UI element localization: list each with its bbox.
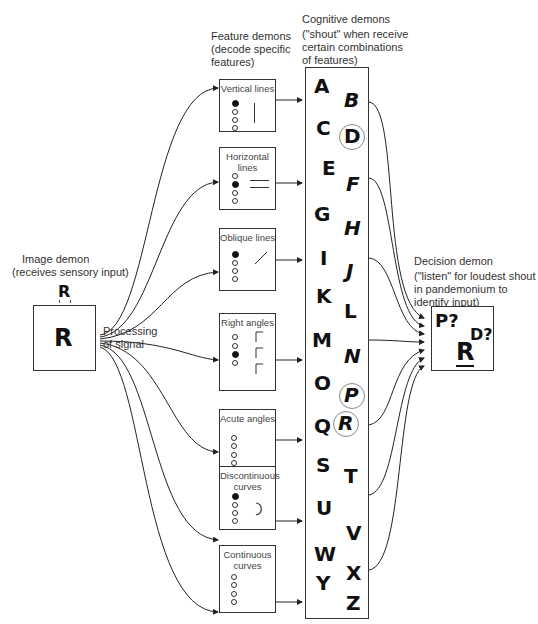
image-letter: R xyxy=(54,328,72,348)
cognitive-demons-column: A C E G I K M O Q S U W Y B D F H J L N … xyxy=(305,67,369,619)
feature-label: Acute angles xyxy=(220,413,275,424)
feature-demons-header: Feature demons (decode specific features… xyxy=(211,30,291,69)
horizontal-line-icon xyxy=(250,187,269,188)
cognitive-demons-subtitle-2: certain combinations xyxy=(302,41,408,54)
cognitive-demons-header: Cognitive demons ("shout" when receive c… xyxy=(302,13,408,67)
letter-i: I xyxy=(320,248,327,268)
feature-box-horizontal-lines: Horizontal lines xyxy=(219,147,276,210)
letter-t: T xyxy=(344,466,358,486)
dot-empty xyxy=(232,502,238,508)
dot-empty xyxy=(231,435,237,441)
feature-demons-subtitle-2: features) xyxy=(211,56,291,69)
letter-d: D xyxy=(344,126,361,146)
letter-g: G xyxy=(314,204,330,224)
letter-o: O xyxy=(314,373,331,393)
processing-label: Processing of signal xyxy=(103,325,157,351)
dot-empty xyxy=(231,574,237,580)
feature-label-line1: Continuous xyxy=(220,549,275,560)
feature-label-line2: curves xyxy=(220,560,275,571)
letter-z: Z xyxy=(346,593,361,613)
letter-w: W xyxy=(314,544,336,564)
decision-demon-title: Decision demon xyxy=(414,255,536,268)
dot-empty xyxy=(232,198,238,204)
dot-empty xyxy=(232,268,238,274)
letter-u: U xyxy=(316,498,332,518)
image-demon-subtitle: (receives sensory input) xyxy=(12,266,152,279)
decision-demon-box: P? D? R xyxy=(431,306,494,371)
feature-label: Right angles xyxy=(220,317,275,328)
answer-letter: R xyxy=(456,342,474,362)
feature-box-vertical-lines: Vertical lines xyxy=(219,79,276,132)
letter-a: A xyxy=(314,76,329,96)
feature-demons-title: Feature demons xyxy=(211,30,291,43)
feature-label: Vertical lines xyxy=(220,83,275,94)
letter-q: Q xyxy=(314,416,331,436)
curve-icon xyxy=(254,501,264,517)
feature-label-line1: Discontinuous xyxy=(220,470,275,481)
processing-label-line2: of signal xyxy=(103,338,157,351)
letter-e: E xyxy=(322,158,336,178)
dot-filled xyxy=(232,100,239,107)
input-letter: R xyxy=(58,282,70,302)
letter-h: H xyxy=(344,218,361,238)
letter-p: P xyxy=(344,385,359,405)
dot-empty xyxy=(232,360,238,366)
letter-f: F xyxy=(346,174,360,194)
letter-j: J xyxy=(346,261,353,281)
feature-box-right-angles: Right angles xyxy=(219,313,276,391)
dot-empty xyxy=(232,190,238,196)
dot-empty xyxy=(232,343,238,349)
feature-label: Discontinuous curves xyxy=(220,470,275,492)
dot-empty xyxy=(232,173,238,179)
cognitive-demons-title: Cognitive demons xyxy=(302,13,408,26)
letter-r: R xyxy=(338,413,353,433)
dot-empty xyxy=(231,443,237,449)
cognitive-demons-subtitle-1: ("shout" when receive xyxy=(302,28,408,41)
dot-empty xyxy=(231,452,237,458)
letter-m: M xyxy=(312,330,332,350)
dot-empty xyxy=(231,599,237,605)
letter-l: L xyxy=(344,301,357,321)
dot-empty xyxy=(232,117,238,123)
dot-filled xyxy=(232,181,239,188)
feature-demons-subtitle-1: (decode specific xyxy=(211,43,291,56)
feature-box-discontinuous-curves: Discontinuous curves xyxy=(219,466,276,530)
vertical-line-icon xyxy=(254,103,255,123)
dot-empty xyxy=(232,518,238,524)
right-angle-icon xyxy=(254,330,266,380)
feature-label: Horizontal lines xyxy=(220,151,275,173)
guess-p: P? xyxy=(435,311,459,331)
dot-empty xyxy=(232,334,238,340)
feature-box-acute-angles: Acute angles xyxy=(219,409,276,473)
image-demon-title: Image demon xyxy=(22,253,142,266)
dot-empty xyxy=(232,276,238,282)
dot-empty xyxy=(231,582,237,588)
letter-v: V xyxy=(346,523,361,543)
dot-filled xyxy=(232,351,239,358)
letter-k: K xyxy=(316,286,332,306)
dot-filled xyxy=(232,493,239,500)
dot-empty xyxy=(232,109,238,115)
letter-c: C xyxy=(316,118,331,138)
dot-filled xyxy=(232,251,239,258)
feature-box-continuous-curves: Continuous curves xyxy=(219,545,276,613)
letter-x: X xyxy=(346,563,361,583)
letter-n: N xyxy=(344,346,361,366)
feature-label-line2: curves xyxy=(220,481,275,492)
image-demon-box: R xyxy=(33,305,96,371)
horizontal-line-icon xyxy=(250,180,269,181)
feature-label: Continuous curves xyxy=(220,549,275,571)
feature-box-oblique-lines: Oblique lines xyxy=(219,228,276,291)
oblique-line-icon xyxy=(254,251,268,265)
dot-empty xyxy=(232,260,238,266)
letter-s: S xyxy=(316,455,330,475)
dot-empty xyxy=(232,510,238,516)
letter-b: B xyxy=(344,90,359,110)
decision-demon-subtitle-2: in pandemonium to xyxy=(414,283,536,296)
cognitive-demons-subtitle-3: of features) xyxy=(302,54,408,67)
dot-empty xyxy=(232,125,238,131)
feature-label: Oblique lines xyxy=(220,232,275,243)
decision-demon-header: Decision demon ("listen" for loudest sho… xyxy=(414,255,536,309)
dot-empty xyxy=(231,591,237,597)
letter-y: Y xyxy=(316,573,330,593)
